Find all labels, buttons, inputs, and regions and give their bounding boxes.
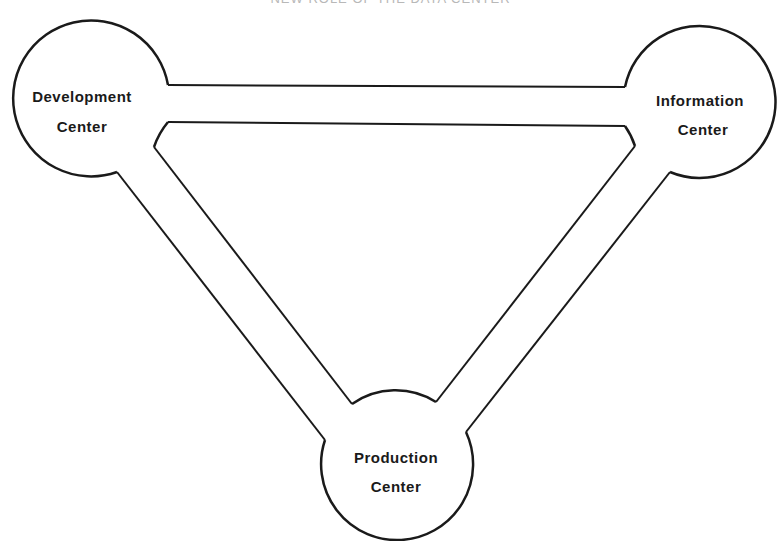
connector-dev-prod-outer: [117, 172, 325, 440]
production-label-1: Production: [354, 449, 438, 466]
information-label-2: Center: [678, 121, 729, 138]
development-label-2: Center: [57, 118, 108, 135]
connector-info-prod-inner: [436, 146, 635, 402]
development-label-1: Development: [32, 88, 132, 105]
connector-dev-info-bottom: [168, 122, 625, 126]
connector-dev-info-top: [168, 85, 625, 87]
information-label-1: Information: [656, 92, 744, 109]
production-label-2: Center: [371, 478, 422, 495]
triangle-diagram: Development Center Information Center Pr…: [0, 0, 781, 541]
connector-dev-prod-inner: [154, 147, 352, 404]
connector-info-prod-outer: [466, 172, 670, 432]
